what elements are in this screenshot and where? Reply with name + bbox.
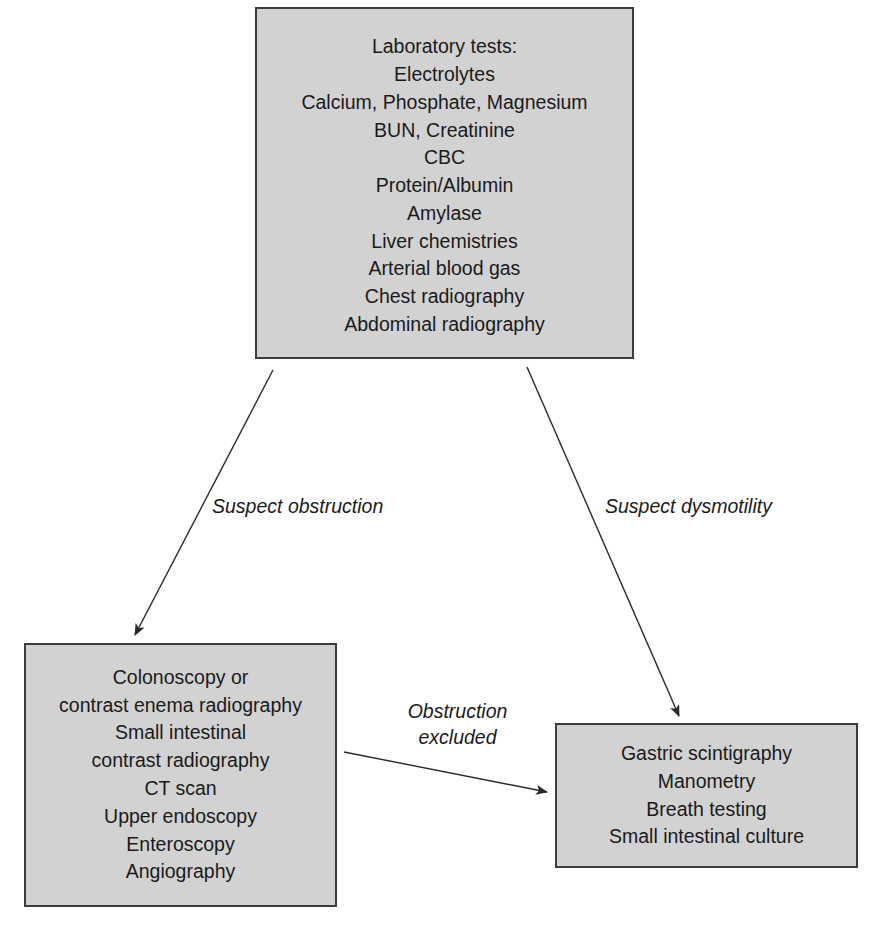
box-line: contrast enema radiography [59,692,302,720]
edge-label-line: Obstruction [390,698,525,724]
box-line: Amylase [407,200,482,228]
box-line: Gastric scintigraphy [621,740,792,768]
box-line: Manometry [658,768,756,796]
box-line: Liver chemistries [371,228,517,256]
box-line: Colonoscopy or [113,664,249,692]
arrow-suspect-dysmotility [527,367,679,716]
box-line: Chest radiography [365,283,524,311]
edge-label-obstruction-excluded: Obstruction excluded [390,698,525,750]
box-line: Calcium, Phosphate, Magnesium [301,89,587,117]
edge-label-suspect-obstruction: Suspect obstruction [212,493,383,519]
box-line: CT scan [144,775,216,803]
obstruction-workup-box: Colonoscopy or contrast enema radiograph… [24,643,337,907]
box-line: Upper endoscopy [104,803,257,831]
dysmotility-workup-box: Gastric scintigraphy Manometry Breath te… [555,723,858,868]
box-line: Electrolytes [394,61,495,89]
box-line: Protein/Albumin [376,172,514,200]
lab-tests-box: Laboratory tests: Electrolytes Calcium, … [255,7,634,359]
box-line: Abdominal radiography [344,311,545,339]
box-line: Breath testing [646,796,766,824]
box-line: Small intestinal [115,719,246,747]
box-line: Enteroscopy [126,831,234,859]
box-line: Arterial blood gas [369,255,521,283]
box-line: CBC [424,144,465,172]
box-line: Small intestinal culture [609,823,804,851]
box-line: contrast radiography [92,747,270,775]
edge-label-suspect-dysmotility: Suspect dysmotility [605,493,772,519]
box-line: Laboratory tests: [372,33,517,61]
box-line: BUN, Creatinine [374,117,515,145]
box-line: Angiography [126,858,236,886]
edge-label-line: excluded [390,724,525,750]
arrow-obstruction-excluded [344,752,547,792]
